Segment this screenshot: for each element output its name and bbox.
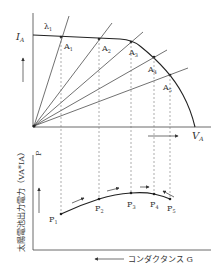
- label-a4: A4: [147, 65, 157, 75]
- label-a5: A5: [162, 83, 172, 93]
- power-plot: P1 P2 P3 P4 P5 P 太陽電池出力電力（VA*IA） コンダクタンス…: [16, 148, 211, 264]
- label-p2: P2: [95, 204, 104, 214]
- point-p4: [153, 193, 156, 196]
- load-lines: [34, 16, 188, 126]
- label-p4: P4: [150, 200, 159, 210]
- y-axis-label-power: 太陽電池出力電力（VA*IA）: [16, 148, 26, 252]
- dashed-projections: [61, 37, 170, 214]
- iv-curve: [33, 35, 195, 127]
- point-p5: [169, 198, 172, 201]
- mppt-diagram: IA VA λ1 A1 A2 A3 A4 A5 P1 P2 P: [0, 0, 221, 273]
- lambda-label: λ1: [44, 22, 52, 32]
- x-axis-label-v: VA: [192, 130, 204, 142]
- label-p5: P5: [167, 204, 176, 214]
- y-axis-label-i: IA: [15, 31, 25, 43]
- x-axis-label-conductance: コンダクタンス G: [128, 254, 193, 264]
- label-a2: A2: [101, 44, 111, 54]
- label-p1: P1: [49, 215, 58, 225]
- iv-plot: IA VA λ1 A1 A2 A3 A4 A5: [15, 13, 211, 214]
- point-p1: [60, 213, 63, 216]
- point-p3: [130, 192, 133, 195]
- origin-point: [32, 124, 35, 127]
- label-a3: A3: [128, 48, 138, 58]
- label-p3: P3: [127, 200, 136, 210]
- label-a1: A1: [63, 42, 73, 52]
- point-p2: [98, 198, 101, 201]
- p-short-label: P: [34, 150, 43, 156]
